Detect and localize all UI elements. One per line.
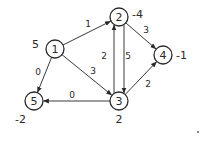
node-value: 2 [116, 113, 123, 126]
node-label: 5 [31, 95, 38, 108]
node-label: 3 [116, 95, 123, 108]
edge-weight-label: 5 [125, 51, 131, 61]
node-value: -1 [176, 49, 187, 62]
edge-3-to-4 [125, 62, 156, 95]
node-4: 4-1 [154, 46, 187, 64]
node-label: 1 [52, 43, 59, 56]
stray-mark [197, 131, 199, 133]
edge-weight-label: 1 [85, 19, 91, 29]
node-3: 32 [110, 92, 128, 126]
node-1: 15 [32, 38, 64, 59]
node-5: 5-2 [15, 92, 43, 126]
node-label: 2 [116, 11, 123, 24]
graph-diagram: 13002532 152-4324-15-2 [0, 0, 204, 143]
edge-weight-label: 2 [145, 79, 151, 89]
node-label: 4 [160, 49, 167, 62]
edges-layer: 13002532 [35, 19, 156, 101]
node-value: -2 [15, 113, 26, 126]
edge-weight-label: 0 [35, 67, 41, 77]
node-value: -4 [132, 8, 143, 21]
edge-weight-label: 3 [90, 66, 96, 76]
edge-2-to-4 [126, 23, 156, 49]
edge-weight-label: 0 [69, 90, 75, 100]
edge-weight-label: 3 [143, 25, 149, 35]
node-value: 5 [32, 38, 39, 51]
edge-weight-label: 2 [101, 51, 107, 61]
